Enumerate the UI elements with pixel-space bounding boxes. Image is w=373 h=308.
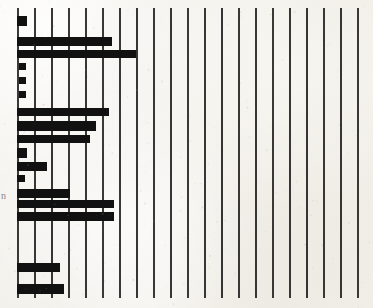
bar bbox=[17, 50, 136, 58]
bar bbox=[17, 37, 112, 46]
bar bbox=[17, 189, 70, 198]
bar bbox=[17, 122, 96, 131]
plot-area bbox=[0, 0, 373, 308]
gridline bbox=[255, 8, 257, 298]
bar bbox=[17, 135, 90, 143]
gridline bbox=[221, 8, 223, 298]
bar bbox=[17, 108, 109, 116]
bar bbox=[19, 77, 26, 84]
bar bbox=[17, 148, 27, 158]
gridline bbox=[170, 8, 172, 298]
gridline bbox=[306, 8, 308, 298]
bar bbox=[17, 16, 27, 26]
gridline bbox=[289, 8, 291, 298]
gridline bbox=[153, 8, 155, 298]
bar bbox=[17, 284, 64, 294]
gridline bbox=[136, 8, 138, 298]
gridline bbox=[357, 8, 359, 298]
bar bbox=[17, 175, 25, 182]
bar bbox=[17, 212, 114, 221]
gridline bbox=[187, 8, 189, 298]
gridline bbox=[204, 8, 206, 298]
gridline bbox=[323, 8, 325, 298]
gridline bbox=[340, 8, 342, 298]
bar bbox=[19, 63, 26, 70]
bar bbox=[17, 200, 114, 208]
gridline bbox=[238, 8, 240, 298]
bar bbox=[19, 91, 26, 98]
bar bbox=[17, 162, 47, 171]
gridline bbox=[272, 8, 274, 298]
chart-figure: n bbox=[0, 0, 373, 308]
bar bbox=[17, 263, 60, 272]
